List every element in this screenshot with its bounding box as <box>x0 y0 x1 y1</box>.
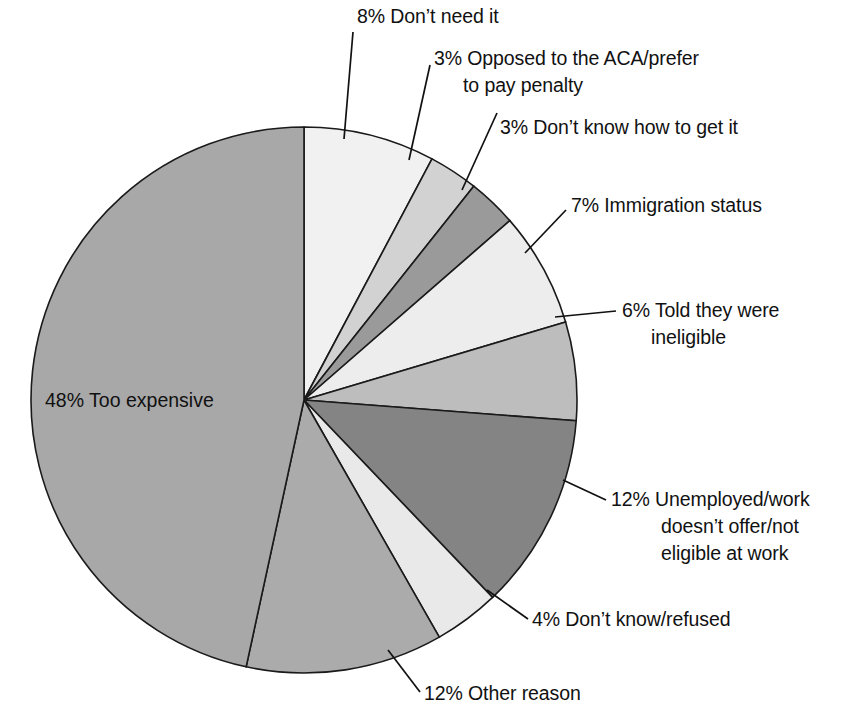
label-dont-know-how: 3% Don’t know how to get it <box>500 116 739 138</box>
label-opposed-line1: 3% Opposed to the ACA/prefer <box>434 47 700 69</box>
label-ineligible-l1: 6% Told they were <box>622 299 779 321</box>
leader-line-dont-need-it <box>344 32 353 139</box>
label-too-expensive: 48% Too expensive <box>45 389 214 411</box>
leader-line-dont-know-how <box>462 113 497 190</box>
label-dk-refused: 4% Don’t know/refused <box>532 608 730 630</box>
label-unemployed-l1: 12% Unemployed/work <box>611 488 810 510</box>
leader-line-dk-refused <box>487 590 528 619</box>
label-immigration: 7% Immigration status <box>571 194 762 216</box>
pie-chart-svg: 8% Don’t need it 3% Opposed to the ACA/p… <box>0 0 845 717</box>
label-dont-need-it: 8% Don’t need it <box>357 5 499 27</box>
label-other-reason: 12% Other reason <box>424 682 581 704</box>
leader-line-other-reason <box>388 650 420 692</box>
label-unemployed-l2: doesn’t offer/not <box>661 515 799 537</box>
pie-chart-figure: 8% Don’t need it 3% Opposed to the ACA/p… <box>0 0 845 717</box>
leader-line-told-ineligible <box>555 311 616 317</box>
label-ineligible-l2: ineligible <box>651 326 726 348</box>
leader-line-immigration <box>525 210 566 253</box>
leader-line-opposed-to-aca <box>409 65 430 160</box>
label-opposed-line2: to pay penalty <box>463 74 583 96</box>
label-unemployed-l3: eligible at work <box>661 542 789 564</box>
leader-line-unemployed <box>563 480 606 500</box>
